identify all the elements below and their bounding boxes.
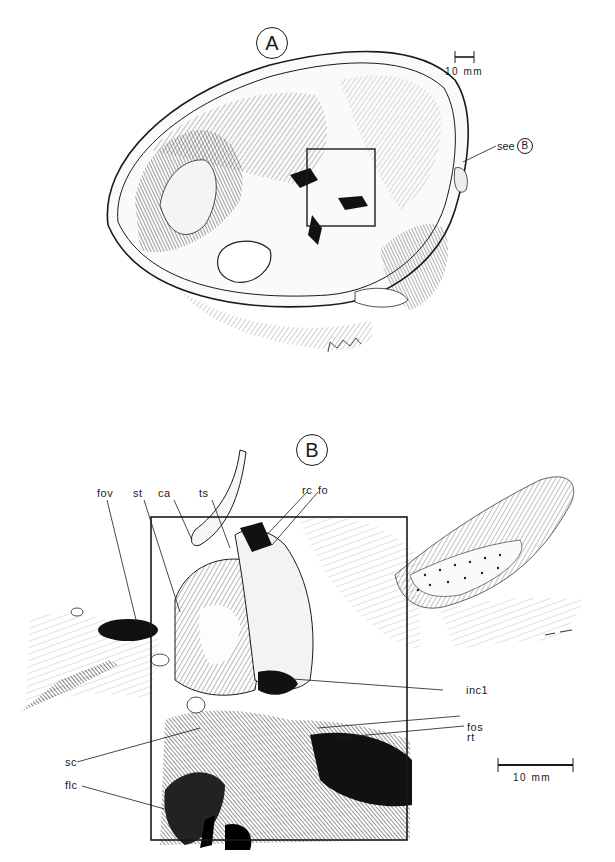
- label-fov: fov: [97, 487, 113, 499]
- panel-a-skull-overview: A 10 mm see B: [0, 0, 615, 380]
- label-inc1: inc1: [466, 684, 488, 696]
- scale-bar-b: [498, 758, 573, 772]
- label-ts: ts: [199, 487, 209, 499]
- see-reference-target: B: [517, 138, 533, 154]
- scale-bar-b-label: 10 mm: [513, 772, 551, 783]
- skull-illustration: [0, 0, 615, 380]
- label-ca: ca: [158, 487, 171, 499]
- label-st: st: [133, 487, 143, 499]
- label-flc: flc: [65, 779, 78, 791]
- panel-b-detail: B fov st ca ts rc fo inc1 fos rt sc flc …: [0, 420, 615, 862]
- scale-bar-a-label: 10 mm: [445, 66, 483, 77]
- see-reference: see B: [497, 138, 533, 154]
- panel-label-b: B: [296, 434, 328, 466]
- label-rc: rc: [302, 484, 312, 496]
- see-reference-prefix: see: [497, 140, 515, 152]
- label-fo: fo: [318, 484, 328, 496]
- scale-bar-a: [455, 51, 474, 63]
- label-rt: rt: [467, 731, 475, 743]
- panel-label-a: A: [256, 27, 288, 59]
- label-sc: sc: [65, 756, 77, 768]
